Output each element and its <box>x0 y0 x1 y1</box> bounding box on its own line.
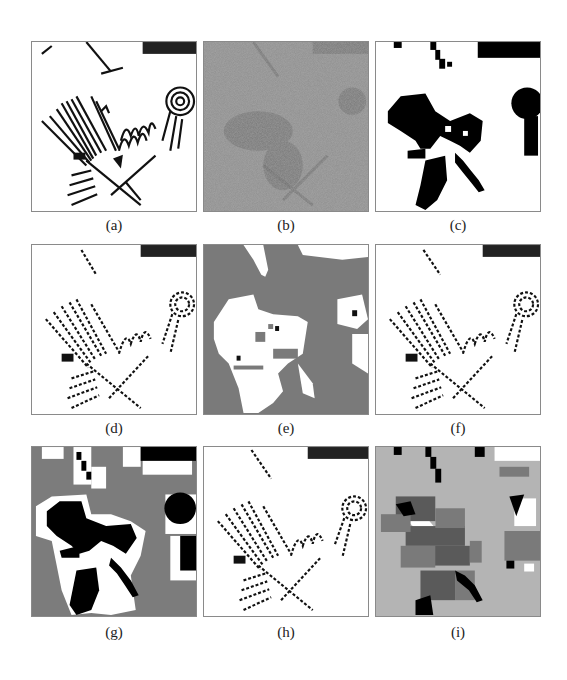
gray-white-segmentation <box>204 245 368 414</box>
panel-d-image <box>31 244 197 415</box>
panel-d-label: (d) <box>31 420 197 437</box>
panel-g-image <box>31 446 197 617</box>
binary-blob-segmentation <box>376 42 540 211</box>
panel-b-image <box>203 41 369 212</box>
panel-c-image <box>375 41 541 212</box>
binary-dotted-result <box>376 245 540 414</box>
panel-a-label: (a) <box>31 217 197 234</box>
panel-i-image <box>375 446 541 617</box>
panel-a-image <box>31 41 197 212</box>
panel-b-label: (b) <box>203 217 369 234</box>
panel-i-label: (i) <box>375 624 541 641</box>
panel-e-label: (e) <box>203 420 369 437</box>
panel-g-label: (g) <box>31 624 197 641</box>
panel-h-image <box>203 446 369 617</box>
panel-c-label: (c) <box>375 217 541 234</box>
noisy-gray-image <box>204 42 368 211</box>
gray-black-white-blocks <box>32 447 196 616</box>
binary-line-drawing <box>32 42 196 211</box>
binary-dotted-result <box>204 447 368 616</box>
multi-gray-segmentation <box>376 447 540 616</box>
binary-dotted-result <box>32 245 196 414</box>
panel-h-label: (h) <box>203 624 369 641</box>
panel-f-label: (f) <box>375 420 541 437</box>
panel-f-image <box>375 244 541 415</box>
panel-e-image <box>203 244 369 415</box>
